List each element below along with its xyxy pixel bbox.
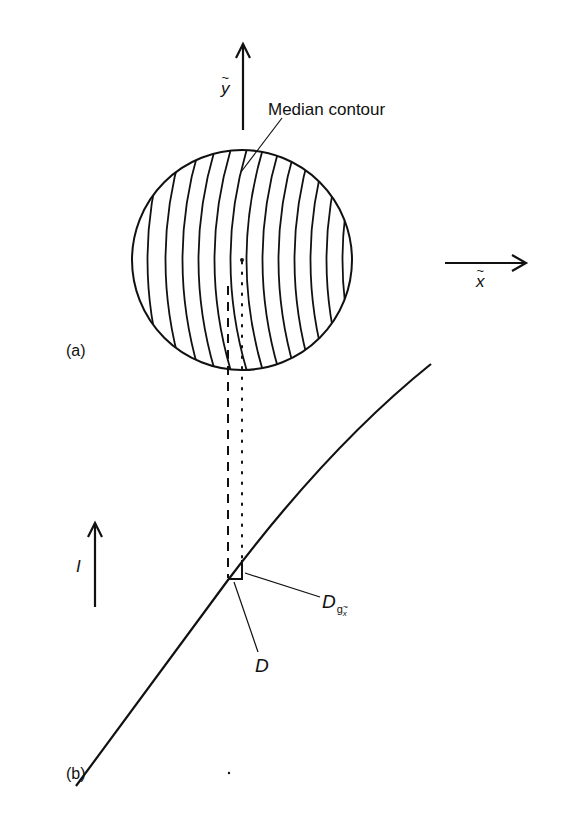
x-axis-label: x bbox=[476, 273, 485, 290]
d-leader bbox=[234, 582, 258, 652]
i-axis-label: I bbox=[76, 558, 81, 575]
y-axis-label: y bbox=[221, 80, 230, 97]
contour-lines bbox=[128, 130, 382, 390]
y-axis-arrow bbox=[236, 44, 250, 130]
median-contour-label: Median contour bbox=[268, 101, 385, 118]
dg-label: Dgx bbox=[322, 592, 347, 611]
d-label: D bbox=[255, 656, 269, 675]
median-contour-leader bbox=[241, 118, 282, 172]
panel-a-label: (a) bbox=[66, 343, 86, 359]
figure-canvas bbox=[0, 0, 565, 827]
i-axis-arrow bbox=[88, 523, 102, 607]
dg-leader bbox=[245, 573, 320, 597]
stray-dot bbox=[228, 772, 230, 774]
x-axis-arrow bbox=[445, 255, 526, 271]
characteristic-curve bbox=[76, 364, 431, 786]
panel-b-label: (b) bbox=[66, 766, 86, 782]
